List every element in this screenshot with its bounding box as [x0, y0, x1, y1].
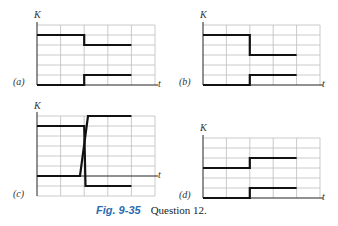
- panel-d-curve-2: [203, 188, 297, 198]
- figure-number: Fig. 9-35: [96, 204, 141, 216]
- panel-c-x-label: t: [158, 169, 161, 180]
- panel-d-y-label: K: [200, 122, 207, 133]
- panel-d-label: (d): [179, 189, 191, 200]
- panel-b-curve-2: [203, 75, 297, 85]
- panel-c-y-label: K: [34, 100, 41, 111]
- figure-caption-text: Question 12.: [151, 204, 207, 216]
- panel-c-label: (c): [13, 188, 24, 199]
- panel-a-curve-1: [37, 35, 131, 45]
- panel-a-curve-2: [37, 75, 131, 85]
- panel-d-curve-1: [203, 158, 297, 168]
- panel-a-x-label: t: [158, 78, 161, 89]
- panel-b-y-label: K: [200, 9, 207, 20]
- panel-b-label: (b): [179, 76, 191, 87]
- figure-caption: Fig. 9-35Question 12.: [96, 204, 207, 216]
- panel-a-y-label: K: [34, 9, 41, 20]
- panel-c-grid: [37, 116, 155, 196]
- panel-b-x-label: t: [322, 78, 325, 89]
- figure-canvas: [0, 0, 338, 226]
- panel-a-label: (a): [13, 76, 25, 87]
- panel-d-x-label: t: [322, 191, 325, 202]
